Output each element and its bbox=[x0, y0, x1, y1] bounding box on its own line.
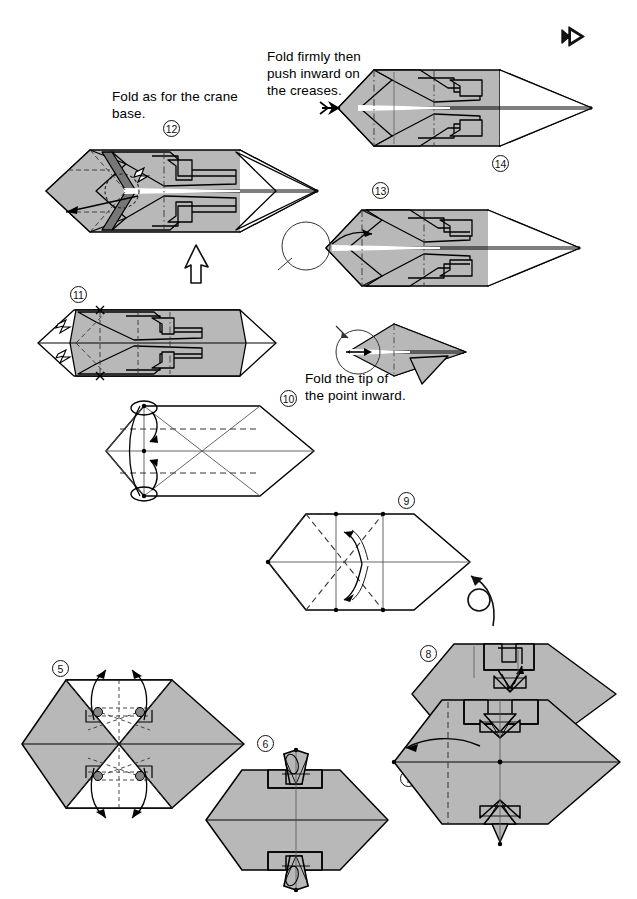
caption-fold-as-for-crane-base: Fold as for the crane base. bbox=[112, 88, 292, 122]
step-7-diagram bbox=[388, 684, 628, 864]
origami-instruction-page: Fold as for the crane base. Fold firmly … bbox=[0, 0, 637, 899]
step-10-diagram bbox=[100, 396, 320, 506]
step-11-diagram bbox=[34, 302, 284, 384]
page-turn-arrow-icon bbox=[558, 22, 598, 52]
tip-detail-diagram bbox=[330, 318, 480, 390]
turn-over-rotation-arrow-icon bbox=[455, 560, 515, 630]
step-14-diagram bbox=[330, 58, 610, 158]
step-12-diagram bbox=[40, 136, 330, 246]
step-5-diagram bbox=[18, 664, 248, 824]
step-13-diagram bbox=[318, 196, 598, 300]
push-inward-arrow-icon bbox=[320, 101, 340, 115]
step-number-11: 11 bbox=[70, 286, 87, 303]
step-number-12: 12 bbox=[163, 120, 180, 137]
step-9-diagram bbox=[258, 502, 478, 622]
hollow-up-arrow-icon bbox=[182, 243, 212, 285]
